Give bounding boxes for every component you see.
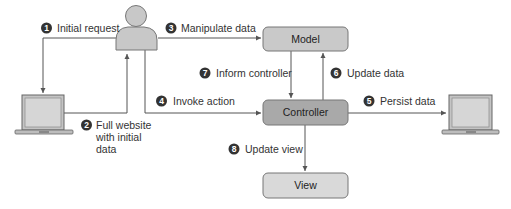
- step-3: 3 Manipulate data: [166, 22, 256, 34]
- step-number: 5: [367, 96, 372, 106]
- step-label: Update view: [245, 143, 303, 155]
- step-number: 3: [169, 23, 174, 33]
- step-6: 6 Update data: [331, 67, 405, 79]
- step-number: 7: [203, 68, 208, 78]
- step-5: 5 Persist data: [364, 95, 436, 107]
- controller-label: Controller: [283, 106, 329, 118]
- server-laptop-icon: [442, 95, 499, 134]
- step-label: Inform controller: [216, 67, 292, 79]
- step-number: 4: [159, 96, 164, 106]
- step-label-line-3: data: [96, 143, 117, 155]
- step-label-line-1: Full website: [96, 119, 152, 131]
- view-label: View: [294, 179, 317, 191]
- arrow-initial-request: [43, 38, 116, 93]
- step-label: Initial request: [57, 22, 120, 34]
- step-1: 1 Initial request: [41, 22, 120, 34]
- user-icon: [116, 6, 157, 51]
- step-number: 1: [44, 23, 49, 33]
- model-label: Model: [291, 33, 320, 45]
- controller-box: Controller: [263, 100, 348, 125]
- step-8: 8 Update view: [229, 143, 304, 155]
- step-label: Persist data: [380, 95, 436, 107]
- step-4: 4 Invoke action: [156, 95, 235, 107]
- step-label: Manipulate data: [181, 22, 256, 34]
- model-box: Model: [263, 27, 348, 51]
- mvc-diagram: Model Controller View 1 Initial request …: [0, 0, 511, 209]
- step-label-line-2: with initial: [95, 131, 142, 143]
- step-7: 7 Inform controller: [200, 67, 293, 79]
- arrow-full-website: [64, 54, 127, 113]
- step-label: Update data: [347, 67, 404, 79]
- step-label: Invoke action: [173, 95, 235, 107]
- client-laptop-icon: [15, 95, 73, 134]
- step-number: 2: [84, 120, 89, 130]
- step-2: 2 Full website with initial data: [81, 119, 152, 155]
- step-number: 8: [232, 144, 237, 154]
- view-box: View: [263, 173, 348, 198]
- step-number: 6: [334, 68, 339, 78]
